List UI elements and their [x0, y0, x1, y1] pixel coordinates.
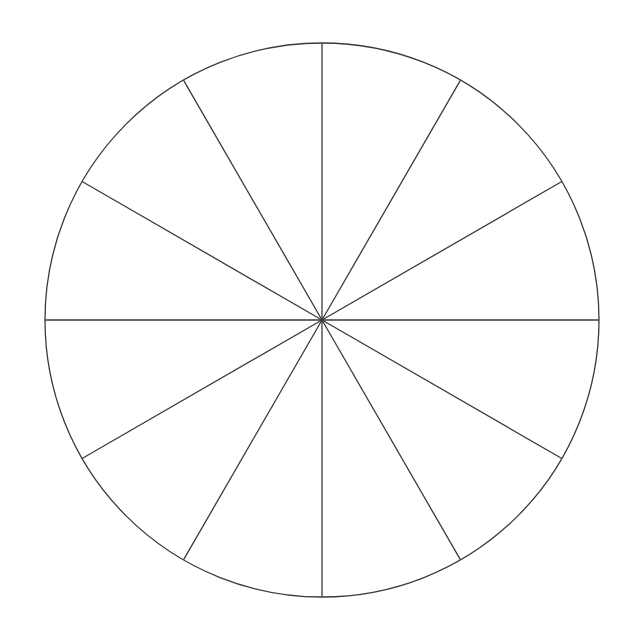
fraction-circle-diagram — [0, 0, 624, 635]
figure-canvas — [0, 0, 624, 635]
